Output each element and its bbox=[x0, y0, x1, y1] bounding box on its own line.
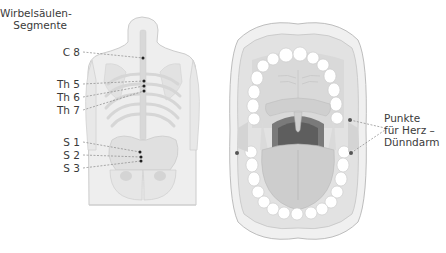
segments-title-line2: Segmente bbox=[0, 19, 67, 31]
mouth-label-line3: Dünndarm bbox=[384, 136, 440, 148]
mouth-label-line2: für Herz – bbox=[384, 124, 440, 136]
diagram-canvas bbox=[0, 0, 446, 253]
label-s3: S 3 bbox=[30, 162, 80, 174]
segments-title: Wirbelsäulen- Segmente bbox=[0, 7, 67, 31]
label-s2: S 2 bbox=[30, 149, 80, 161]
label-th7: Th 7 bbox=[30, 104, 80, 116]
label-s1: S 1 bbox=[30, 136, 80, 148]
label-th6: Th 6 bbox=[30, 91, 80, 103]
heart-small-intestine-label: Punkte für Herz – Dünndarm bbox=[384, 112, 440, 148]
segments-title-line1: Wirbelsäulen- bbox=[0, 7, 67, 19]
label-th5: Th 5 bbox=[30, 78, 80, 90]
label-c8: C 8 bbox=[30, 46, 80, 58]
back-figure bbox=[86, 17, 200, 205]
mouth-label-line1: Punkte bbox=[384, 112, 440, 124]
mouth-figure bbox=[230, 23, 367, 240]
